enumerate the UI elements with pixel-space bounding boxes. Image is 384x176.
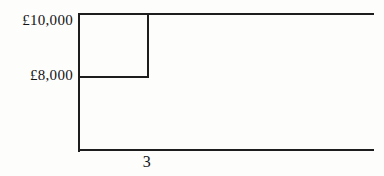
series-segment-vertical-drop xyxy=(147,13,149,78)
y-axis-tick-label-8000: £8,000 xyxy=(30,68,73,83)
series-segment-upper-tail xyxy=(147,13,374,15)
series-segment-lower-level xyxy=(78,76,149,78)
x-axis-line xyxy=(78,149,374,151)
x-axis-tick-label-3: 3 xyxy=(0,153,294,171)
chart-figure: £10,000 £8,000 3 xyxy=(0,0,384,176)
series-segment-upper-level xyxy=(78,13,149,15)
y-axis-tick-label-10000: £10,000 xyxy=(22,13,73,28)
y-axis-line xyxy=(78,13,80,152)
